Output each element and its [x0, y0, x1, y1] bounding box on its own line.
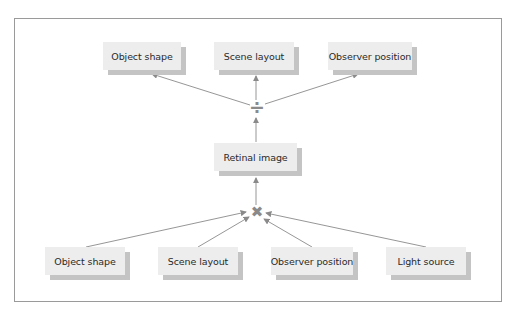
- arrow-input-observer-position: [264, 219, 312, 247]
- multiply-icon: ✖: [248, 203, 266, 221]
- arrow-input-light-source: [266, 213, 426, 247]
- input-scene-layout: Scene layout: [158, 247, 238, 275]
- node-label: Scene layout: [168, 256, 228, 267]
- node-label: Object shape: [54, 256, 115, 267]
- divide-icon: ÷: [249, 97, 265, 117]
- node-label: Object shape: [111, 51, 172, 62]
- node-label: Scene layout: [224, 51, 284, 62]
- arrow-to-output-object-shape: [152, 74, 250, 105]
- input-object-shape: Object shape: [45, 247, 125, 275]
- output-object-shape: Object shape: [103, 42, 181, 70]
- node-label: Retinal image: [223, 152, 287, 163]
- arrow-input-object-shape: [86, 212, 246, 247]
- retinal-image-node: Retinal image: [214, 143, 297, 171]
- output-scene-layout: Scene layout: [214, 42, 294, 70]
- arrow-input-scene-layout: [198, 217, 249, 247]
- node-label: Light source: [397, 256, 454, 267]
- output-observer-position: Observer position: [328, 42, 412, 70]
- input-observer-position: Observer position: [271, 247, 353, 275]
- arrow-to-output-observer-position: [265, 74, 358, 104]
- node-label: Observer position: [271, 256, 354, 267]
- input-light-source: Light source: [386, 247, 466, 275]
- node-label: Observer position: [329, 51, 412, 62]
